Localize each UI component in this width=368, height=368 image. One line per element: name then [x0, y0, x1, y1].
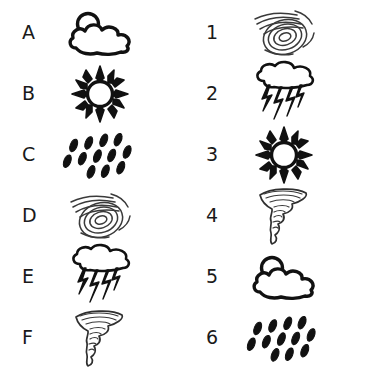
list-item-6[interactable]: 6: [184, 307, 368, 368]
sun-behind-cloud-icon[interactable]: [242, 246, 326, 307]
row-label-4: 4: [206, 206, 232, 225]
worksheet-sheet: A B: [0, 0, 368, 368]
numbered-column: 1: [184, 0, 368, 368]
tornado-icon[interactable]: [242, 185, 326, 246]
lettered-column: A B: [0, 0, 184, 368]
row-label-d: D: [22, 206, 48, 225]
list-item-b[interactable]: B: [0, 63, 184, 124]
row-label-1: 1: [206, 23, 232, 42]
tornado-icon[interactable]: [58, 307, 142, 368]
row-label-b: B: [22, 84, 48, 103]
list-item-e[interactable]: E: [0, 246, 184, 307]
hurricane-icon[interactable]: [242, 2, 326, 63]
row-label-2: 2: [206, 84, 232, 103]
hurricane-icon[interactable]: [58, 185, 142, 246]
row-label-a: A: [22, 23, 48, 42]
rain-icon[interactable]: [242, 307, 326, 368]
list-item-3[interactable]: 3: [184, 124, 368, 185]
list-item-2[interactable]: 2: [184, 63, 368, 124]
row-label-c: C: [22, 145, 48, 164]
row-label-e: E: [22, 267, 48, 286]
list-item-f[interactable]: F: [0, 307, 184, 368]
thunderstorm-icon[interactable]: [58, 246, 142, 307]
row-label-f: F: [22, 328, 48, 347]
sun-icon[interactable]: [58, 63, 142, 124]
sun-icon[interactable]: [242, 124, 326, 185]
list-item-c[interactable]: C: [0, 124, 184, 185]
list-item-a[interactable]: A: [0, 2, 184, 63]
rain-icon[interactable]: [58, 124, 142, 185]
row-label-3: 3: [206, 145, 232, 164]
list-item-1[interactable]: 1: [184, 2, 368, 63]
row-label-5: 5: [206, 267, 232, 286]
list-item-4[interactable]: 4: [184, 185, 368, 246]
list-item-d[interactable]: D: [0, 185, 184, 246]
list-item-5[interactable]: 5: [184, 246, 368, 307]
thunderstorm-icon[interactable]: [242, 63, 326, 124]
row-label-6: 6: [206, 328, 232, 347]
sun-behind-cloud-icon[interactable]: [58, 2, 142, 63]
